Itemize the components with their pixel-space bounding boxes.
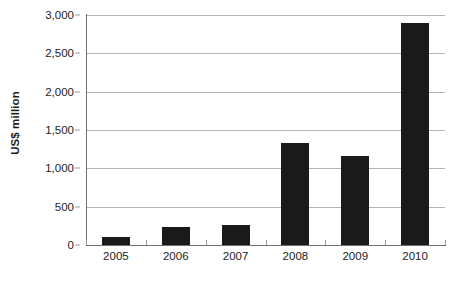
y-axis-tick-mark [75,53,80,54]
bars-layer [86,15,445,245]
x-axis-tick-label: 2008 [283,250,309,262]
bar [401,23,429,245]
x-axis-tick-label: 2007 [223,250,249,262]
y-axis-title: US$ million [4,0,26,245]
y-axis-tick-mark [75,91,80,92]
y-axis-tick-mark [75,206,80,207]
y-axis-tick-label: 500 [55,201,74,213]
x-axis-tick-labels: 200520062007200820092010 [86,250,445,272]
y-axis-tick-label: 1,000 [45,162,74,174]
bar [281,143,309,245]
y-axis-tick-mark [75,130,80,131]
x-axis-tick-mark [146,240,147,245]
y-axis-tick-label: 3,000 [45,9,74,21]
x-axis-tick-mark [445,240,446,245]
y-axis-tick-mark [75,15,80,16]
x-axis-tick-label: 2010 [402,250,428,262]
y-axis-tick-mark [75,168,80,169]
y-axis-tick-label: 2,500 [45,47,74,59]
y-axis-tick-label: 2,000 [45,86,74,98]
y-axis-tick-labels: 05001,0001,5002,0002,5003,000 [26,0,80,292]
x-axis-tick-mark [86,240,87,245]
x-axis-ticks [86,240,446,246]
x-axis-tick-label: 2006 [163,250,189,262]
x-axis-tick-label: 2005 [103,250,129,262]
x-axis-tick-mark [385,240,386,245]
bar [341,156,369,245]
y-axis-tick-label: 0 [68,239,74,251]
x-axis-tick-mark [325,240,326,245]
y-axis-title-text: US$ million [9,91,21,155]
bar-chart: US$ million 05001,0001,5002,0002,5003,00… [0,0,459,292]
x-axis-tick-mark [266,240,267,245]
y-axis-tick-mark [75,245,80,246]
y-axis-tick-label: 1,500 [45,124,74,136]
x-axis-tick-label: 2009 [342,250,368,262]
x-axis-tick-mark [206,240,207,245]
